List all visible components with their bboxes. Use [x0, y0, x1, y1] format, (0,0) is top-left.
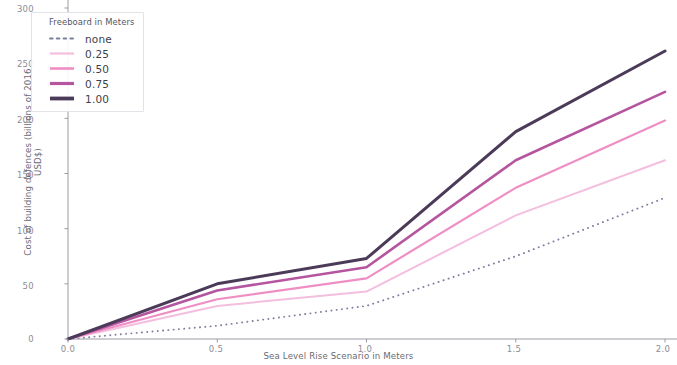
series-line-1-00	[68, 51, 665, 339]
legend-item-none[interactable]: none	[39, 31, 134, 46]
legend-item-100[interactable]: 1.00	[39, 91, 134, 106]
y-tick-label: 50	[0, 281, 34, 291]
series-line-0-75	[68, 92, 665, 339]
legend-line-swatch-icon	[49, 33, 75, 44]
legend-label: 1.00	[85, 93, 109, 105]
legend-label: 0.50	[85, 63, 109, 75]
x-axis-title: Sea Level Rise Scenario in Meters	[0, 351, 677, 361]
legend-line-swatch-icon	[49, 78, 75, 89]
series-line-0-25	[68, 160, 665, 339]
chart-figure: 300 250 200 150 100 50 0 0.0 0.5 1.0 1.5…	[0, 0, 677, 365]
legend-label: 0.25	[85, 48, 109, 60]
series-lines	[65, 8, 666, 343]
y-tick-label: 300	[0, 4, 34, 14]
legend-item-050[interactable]: 0.50	[39, 61, 134, 76]
legend-line-swatch-icon	[49, 63, 75, 74]
legend-item-025[interactable]: 0.25	[39, 46, 134, 61]
legend-line-swatch-icon	[49, 93, 75, 104]
legend-label: 0.75	[85, 78, 109, 90]
y-tick-label: 0	[0, 334, 34, 344]
legend-label: none	[85, 33, 112, 45]
legend-line-swatch-icon	[49, 48, 75, 59]
legend: Freeboard in Meters none 0.25 0.50 0.75	[31, 12, 144, 112]
legend-title: Freeboard in Meters	[49, 17, 134, 27]
legend-item-075[interactable]: 0.75	[39, 76, 134, 91]
